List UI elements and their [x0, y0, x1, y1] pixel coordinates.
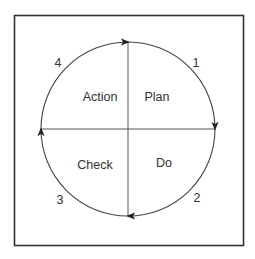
arc-do-to-check-arrow: [128, 129, 215, 216]
diagram-frame: [15, 16, 244, 246]
arc-plan-to-do-arrow: [128, 42, 215, 129]
quadrant-label-plan: Plan: [144, 90, 169, 104]
quadrant-label-check: Check: [77, 158, 113, 172]
step-number-3: 3: [57, 193, 64, 207]
step-number-1: 1: [193, 56, 200, 70]
step-number-4: 4: [55, 56, 62, 70]
arc-check-to-action-arrow: [41, 129, 128, 216]
pdca-diagram: Action Plan Check Do 1 2 3 4: [0, 0, 255, 259]
quadrant-label-action: Action: [83, 90, 118, 104]
step-number-2: 2: [194, 191, 201, 205]
quadrant-label-do: Do: [156, 156, 172, 170]
